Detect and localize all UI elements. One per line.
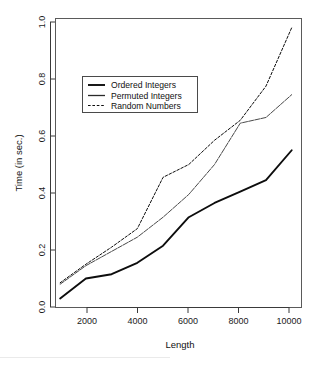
series-line-random-numbers xyxy=(60,28,292,283)
legend: Ordered Integers Permuted Integers Rando… xyxy=(83,77,198,113)
series-line-permuted-integers xyxy=(60,95,292,285)
legend-label-random-numbers: Random Numbers xyxy=(111,101,181,111)
line-chart: 1.0 0.8 0.6 0.4 0.2 0.0 Time (in sec.) 2… xyxy=(0,0,314,365)
y-axis-tick-labels: 1.0 0.8 0.6 0.4 0.2 0.0 xyxy=(37,16,47,314)
legend-label-permuted-integers: Permuted Integers xyxy=(111,91,182,101)
y-tick-label: 0.8 xyxy=(37,73,47,86)
y-tick-label: 0.4 xyxy=(37,187,47,200)
x-tick-label: 6000 xyxy=(178,316,198,326)
chart-figure: 1.0 0.8 0.6 0.4 0.2 0.0 Time (in sec.) 2… xyxy=(0,0,314,365)
y-tick-label: 0.0 xyxy=(37,301,47,314)
x-axis-tick-labels: 2000 4000 6000 8000 10000 xyxy=(77,316,302,326)
legend-label-ordered-integers: Ordered Integers xyxy=(111,80,176,90)
y-axis-title: Time (in sec.) xyxy=(13,134,24,191)
x-tick-label: 8000 xyxy=(228,316,248,326)
x-tick-label: 2000 xyxy=(77,316,97,326)
y-tick-label: 0.6 xyxy=(37,130,47,143)
scan-artifact xyxy=(0,357,170,358)
plot-frame xyxy=(56,19,302,308)
y-tick-label: 0.2 xyxy=(37,244,47,257)
x-axis-title: Length xyxy=(165,339,194,350)
x-tick-label: 10000 xyxy=(276,316,301,326)
x-tick-label: 4000 xyxy=(127,316,147,326)
series-line-ordered-integers xyxy=(60,150,292,298)
y-tick-label: 1.0 xyxy=(37,16,47,29)
